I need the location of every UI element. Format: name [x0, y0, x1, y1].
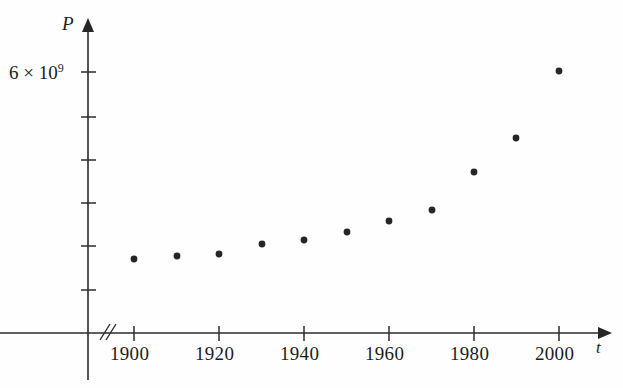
data-point — [131, 256, 138, 263]
x-axis-tick-label-1960: 1960 — [365, 344, 404, 363]
scatter-plot-figure: 6 × 109 P t 1900 1920 1940 1960 1980 200… — [0, 0, 623, 388]
plot-canvas — [0, 0, 623, 388]
y-axis-name: P — [62, 14, 74, 33]
data-point — [556, 68, 563, 75]
y-axis-tick-label: 6 × 109 — [9, 62, 64, 82]
data-point — [344, 229, 351, 236]
data-point — [259, 241, 266, 248]
x-axis-tick-label-1980: 1980 — [450, 344, 489, 363]
data-point — [301, 237, 308, 244]
x-axis-tick-label-1940: 1940 — [280, 344, 319, 363]
data-point — [513, 135, 520, 142]
data-point — [429, 207, 436, 214]
y-axis-arrowhead — [82, 18, 94, 32]
x-axis-tick-label-1920: 1920 — [195, 344, 234, 363]
data-point — [174, 253, 181, 260]
data-point — [386, 218, 393, 225]
axis-break-mark — [100, 324, 110, 340]
x-axis-tick-label-1900: 1900 — [110, 344, 149, 363]
data-point — [216, 251, 223, 258]
x-axis-name: t — [596, 339, 601, 356]
axis-break-mark — [106, 324, 116, 340]
data-point — [471, 169, 478, 176]
x-axis-tick-label-2000: 2000 — [535, 344, 574, 363]
